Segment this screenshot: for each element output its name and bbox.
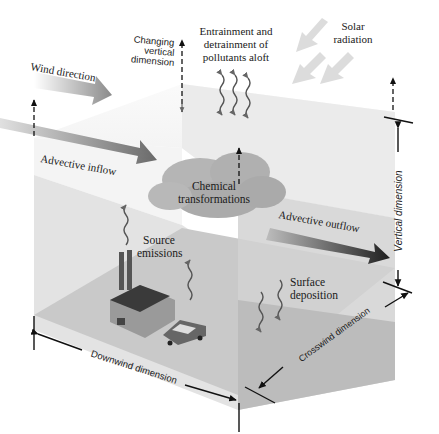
box-model-diagram: Wind direction Changing vertical dimensi… [0,0,439,434]
vertical-dimension-label: Vertical dimension [393,170,404,252]
surface-deposition-label-2: deposition [290,289,338,302]
chemical-transformations-label-2: transformations [178,193,251,205]
chemical-transformations-label-1: Chemical [192,180,236,192]
surface-deposition-label-1: Surface [290,276,325,288]
entrainment-label-1: Entrainment and [199,25,273,37]
solar-radiation-label-1: Solar [341,20,365,32]
solar-radiation-label-2: radiation [333,33,373,45]
source-emissions-label-1: Source [143,234,175,246]
entrainment-label-3: pollutants aloft [203,51,269,63]
source-emissions-label-2: emissions [137,247,183,259]
entrainment-label-2: detrainment of [204,38,269,50]
changing-vertical-label-3: dimension [131,53,175,68]
